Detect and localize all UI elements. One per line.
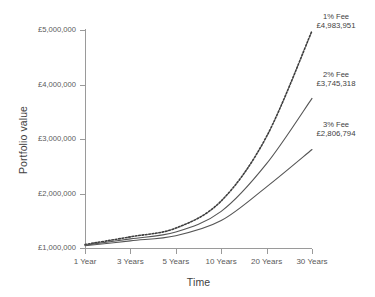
series-value-label: £2,806,794 [300,129,372,139]
series-annotation-1: 1% Fee£4,983,951 [300,12,372,31]
chart-container: Portfolio value Time £1,000,000£2,000,00… [0,0,375,297]
series-name-label: 1% Fee [300,12,372,21]
series-annotation-2: 2% Fee£3,745,318 [300,70,372,89]
plot-curves [0,0,375,297]
series-annotation-3: 3% Fee£2,806,794 [300,120,372,139]
series-line-1 [85,31,312,245]
series-name-label: 3% Fee [300,120,372,129]
series-line-2 [85,98,312,245]
series-line-3 [85,150,312,246]
series-value-label: £4,983,951 [300,21,372,31]
series-name-label: 2% Fee [300,70,372,79]
series-value-label: £3,745,318 [300,79,372,89]
